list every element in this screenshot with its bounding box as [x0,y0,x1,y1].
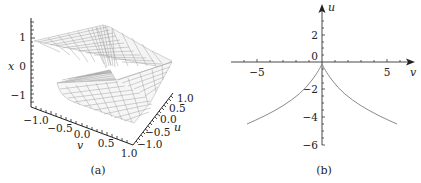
u-tick-neg6: −6 [303,139,319,151]
v-tick-1: 1.0 [121,147,138,159]
x-tick-1: 1 [19,31,26,43]
u-tick-neg4: −4 [303,111,319,123]
v-tick-5: 5 [384,66,391,78]
wireframe-surface [34,25,172,123]
figure: 1 0 −1 x −1.0 −0.5 0.0 0.5 1.0 v [0,0,421,183]
u-tick-neg1: −1.0 [137,138,163,150]
u-tick-0-b: 0 [311,50,318,62]
v-tick-05: 0.5 [98,137,115,149]
v-axis-label: v [77,139,84,152]
panel-a-surface-plot: 1 0 −1 x −1.0 −0.5 0.0 0.5 1.0 v [8,18,194,177]
v-tick-neg5: −5 [249,66,264,78]
caption-a: (a) [90,164,105,177]
u-tick-neg05: −0.5 [145,126,171,138]
v-tick-neg05: −0.5 [47,122,73,134]
vertical-axis-u [319,4,326,145]
vertical-axis-x [31,18,35,107]
v-tick-neg1: −1.0 [23,114,49,126]
caption-b: (b) [316,164,332,177]
v-axis-label-b: v [410,66,417,79]
u-axis-label-b: u [328,1,335,14]
panel-b-line-plot: −5 5 v 2 0 −2 −4 −6 u (b) [231,1,417,177]
horizontal-axis-v [231,59,415,66]
u-tick-2: 2 [311,29,318,41]
x-tick-neg1: −1 [11,89,26,101]
x-tick-0: 0 [19,60,26,72]
u-axis-label: u [174,121,181,134]
x-axis-label: x [8,60,15,73]
